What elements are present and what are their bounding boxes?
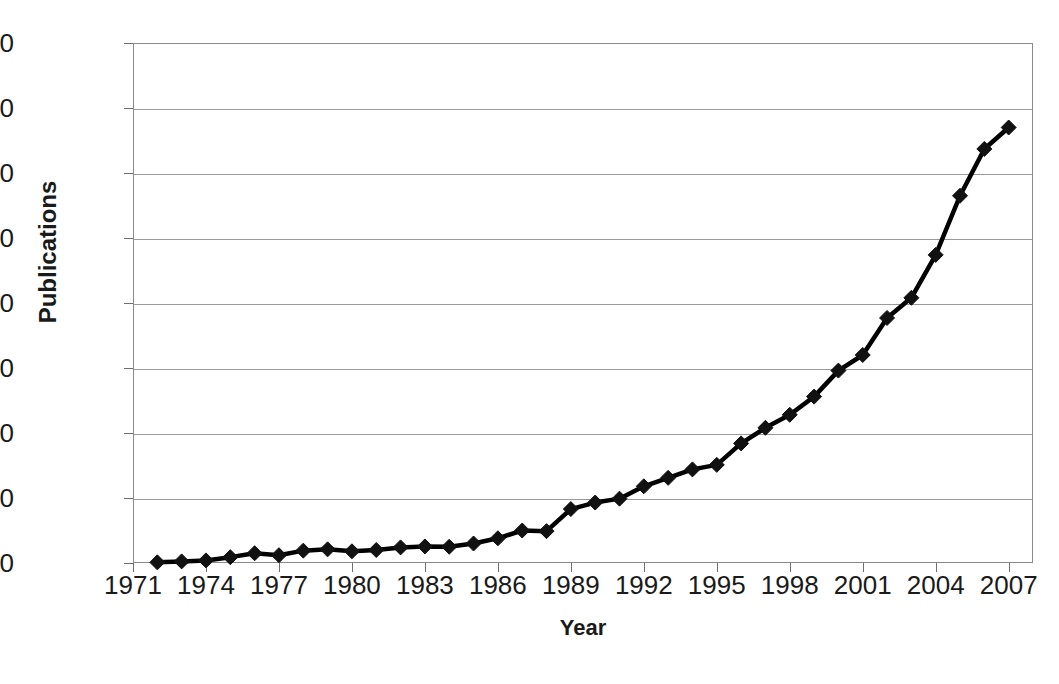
x-tick-mark-2001 — [863, 563, 864, 572]
y-tick-label-7000: 7000 — [0, 95, 14, 121]
gridline-y-1000 — [134, 499, 1032, 500]
x-tick-mark-1998 — [790, 563, 791, 572]
y-tick-mark-0 — [124, 563, 133, 564]
y-tick-mark-6000 — [124, 173, 133, 174]
x-tick-mark-2004 — [936, 563, 937, 572]
x-tick-mark-1983 — [425, 563, 426, 572]
x-tick-mark-1977 — [279, 563, 280, 572]
y-tick-label-8000: 8000 — [0, 30, 14, 56]
y-tick-mark-8000 — [124, 43, 133, 44]
gridline-y-5000 — [134, 239, 1032, 240]
y-tick-mark-5000 — [124, 238, 133, 239]
y-tick-label-3000: 3000 — [0, 355, 14, 381]
gridline-y-2000 — [134, 434, 1032, 435]
x-tick-mark-1980 — [352, 563, 353, 572]
x-tick-mark-1992 — [644, 563, 645, 572]
x-tick-mark-2007 — [1009, 563, 1010, 572]
y-tick-mark-1000 — [124, 498, 133, 499]
y-tick-mark-3000 — [124, 368, 133, 369]
publications-line-chart: Publications 010002000300040005000600070… — [0, 0, 1059, 684]
y-tick-label-0: 0 — [0, 550, 14, 576]
gridline-y-3000 — [134, 369, 1032, 370]
y-tick-label-5000: 5000 — [0, 225, 14, 251]
y-tick-mark-4000 — [124, 303, 133, 304]
x-axis-title: Year — [133, 615, 1033, 641]
y-tick-label-4000: 4000 — [0, 290, 14, 316]
x-tick-mark-1989 — [571, 563, 572, 572]
y-axis-title: Publications — [34, 152, 62, 352]
y-tick-mark-7000 — [124, 108, 133, 109]
y-tick-label-6000: 6000 — [0, 160, 14, 186]
x-tick-label-2007: 2007 — [954, 572, 1059, 598]
x-tick-mark-1971 — [133, 563, 134, 572]
y-tick-label-2000: 2000 — [0, 420, 14, 446]
x-tick-mark-1995 — [717, 563, 718, 572]
y-tick-mark-2000 — [124, 433, 133, 434]
x-tick-mark-1974 — [206, 563, 207, 572]
plot-area — [133, 43, 1033, 563]
gridline-y-6000 — [134, 174, 1032, 175]
gridline-y-4000 — [134, 304, 1032, 305]
y-tick-label-1000: 1000 — [0, 485, 14, 511]
gridline-y-7000 — [134, 109, 1032, 110]
x-tick-mark-1986 — [498, 563, 499, 572]
